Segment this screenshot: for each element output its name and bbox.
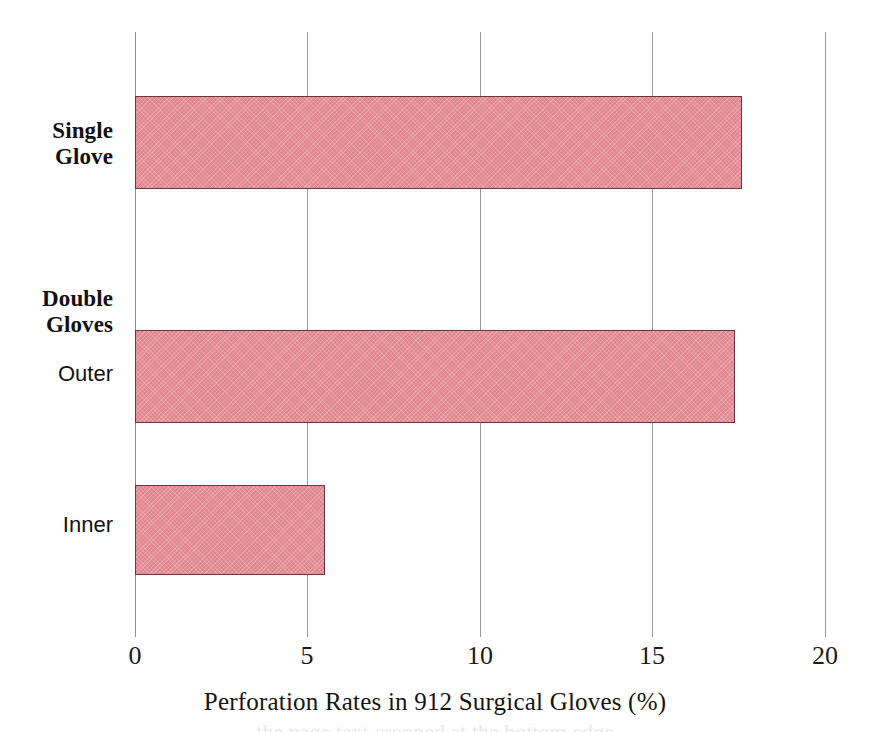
xtick-label-15: 15 [622,641,682,671]
x-axis-title: Perforation Rates in 912 Surgical Gloves… [0,688,870,716]
cropped-page-text: the page text cropped at the bottom edge [0,723,870,732]
xtick-label-0: 0 [105,641,165,671]
bar-inner[interactable] [135,485,325,575]
gridline-20 [825,32,826,637]
bar-chart-figure: Single Glove Double Gloves Outer Inner 0… [0,0,870,732]
xtick-label-5: 5 [277,641,337,671]
bar-outer[interactable] [135,330,735,423]
xtick-label-20: 20 [795,641,855,671]
plot-area [135,32,825,637]
ylabel-double-gloves: Double Gloves [42,286,113,338]
ylabel-outer: Outer [58,362,113,387]
bar-single-glove[interactable] [135,96,742,189]
cropped-page-text-line: the page text cropped at the bottom edge [0,723,870,732]
xtick-label-10: 10 [450,641,510,671]
ylabel-inner: Inner [63,513,113,538]
ylabel-single-glove: Single Glove [52,118,113,170]
